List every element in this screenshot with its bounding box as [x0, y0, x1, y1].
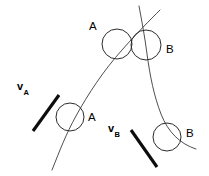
velocity-b-subscript: B: [114, 130, 119, 139]
velocity-a-subscript: A: [23, 88, 28, 97]
label-particle-b-upper: B: [166, 44, 174, 56]
particle-circle-b-lower: [153, 123, 181, 151]
diagram-canvas: A B A B vA vB: [0, 0, 209, 176]
label-particle-b-lower: B: [186, 128, 194, 140]
velocity-vector-a: [33, 95, 59, 131]
label-velocity-b: vB: [108, 123, 120, 137]
label-velocity-a: vA: [17, 81, 29, 95]
label-particle-a-upper: A: [89, 21, 97, 33]
diagram-vector-layer: [0, 0, 209, 176]
label-particle-a-lower: A: [88, 112, 96, 124]
